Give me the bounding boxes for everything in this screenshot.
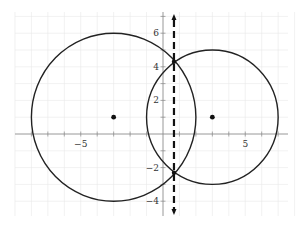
arrow-up-icon — [171, 14, 176, 20]
center-point — [210, 115, 215, 120]
y-tick-label: −4 — [146, 196, 160, 206]
intersection-point — [172, 60, 176, 64]
intersection-point — [172, 170, 176, 174]
graph: −55642−2−4 — [0, 0, 302, 229]
y-tick-label: 6 — [153, 28, 159, 38]
x-tick-label: −5 — [74, 139, 88, 149]
dashed-vertical-line — [171, 14, 176, 215]
x-tick-label: 5 — [242, 139, 248, 149]
center-point — [111, 115, 116, 120]
grid-lines — [15, 12, 295, 216]
y-tick-label: 2 — [153, 95, 159, 105]
y-tick-label: 4 — [153, 62, 159, 72]
y-tick-label: −2 — [146, 163, 159, 173]
arrow-down-icon — [171, 209, 176, 215]
